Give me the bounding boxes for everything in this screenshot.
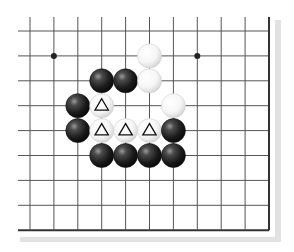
star-point-icon bbox=[194, 53, 200, 59]
stone-body bbox=[161, 119, 185, 143]
black-stone bbox=[90, 69, 114, 93]
white-stone bbox=[138, 44, 162, 68]
white-stone bbox=[138, 119, 162, 143]
go-board bbox=[0, 0, 294, 252]
stone-body bbox=[66, 119, 90, 143]
stone-body bbox=[90, 69, 114, 93]
black-stone bbox=[161, 144, 185, 168]
stone-body bbox=[161, 144, 185, 168]
white-stone bbox=[114, 119, 138, 143]
black-stone bbox=[66, 119, 90, 143]
stone-body bbox=[66, 94, 90, 118]
white-stone bbox=[90, 119, 114, 143]
stone-body bbox=[161, 94, 185, 118]
white-stone bbox=[161, 94, 185, 118]
black-stone bbox=[90, 144, 114, 168]
stone-body bbox=[114, 119, 138, 143]
stone-body bbox=[138, 144, 162, 168]
black-stone bbox=[161, 119, 185, 143]
black-stone bbox=[138, 144, 162, 168]
black-stone bbox=[114, 144, 138, 168]
white-stone bbox=[90, 94, 114, 118]
stone-body bbox=[138, 69, 162, 93]
white-stone bbox=[138, 69, 162, 93]
stone-body bbox=[138, 44, 162, 68]
stone-body bbox=[114, 69, 138, 93]
stone-body bbox=[90, 144, 114, 168]
stone-body bbox=[138, 119, 162, 143]
star-point-icon bbox=[51, 53, 57, 59]
stone-body bbox=[114, 144, 138, 168]
stone-body bbox=[90, 94, 114, 118]
stone-body bbox=[90, 119, 114, 143]
black-stone bbox=[114, 69, 138, 93]
black-stone bbox=[66, 94, 90, 118]
